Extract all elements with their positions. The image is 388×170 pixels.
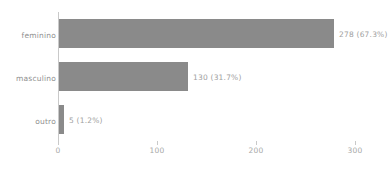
category-label-feminino: feminino (22, 31, 56, 40)
category-label-masculino: masculino (16, 74, 56, 83)
x-axis-tick-0 (58, 141, 59, 145)
bar-value-outro: 5 (1.2%) (69, 116, 103, 125)
x-axis-tick-label-100: 100 (150, 146, 165, 155)
x-axis-tick-200 (256, 141, 257, 145)
bar-value-feminino: 278 (67.3%) (339, 30, 388, 39)
category-label-outro: outro (35, 117, 56, 126)
bar-outro[interactable] (59, 105, 64, 134)
bar-masculino[interactable] (59, 62, 188, 91)
x-axis-tick-label-300: 300 (348, 146, 363, 155)
x-axis-tick-label-200: 200 (249, 146, 264, 155)
x-axis-tick-300 (355, 141, 356, 145)
bar-value-masculino: 130 (31.7%) (193, 73, 242, 82)
x-axis-tick-label-0: 0 (56, 146, 61, 155)
bar-feminino[interactable] (59, 19, 334, 48)
bar-chart: 0 100 200 300 feminino masculino outro 2… (0, 0, 388, 170)
x-axis-tick-100 (157, 141, 158, 145)
